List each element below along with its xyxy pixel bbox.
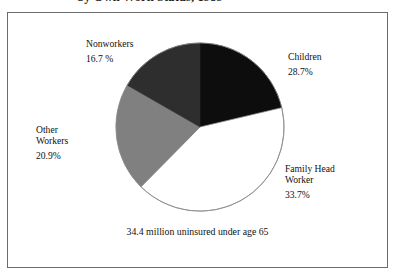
pie-label-family-head-value: 33.7% <box>285 189 335 201</box>
pie-label-family-head-name-line2: Worker <box>285 174 335 185</box>
pie-label-children-value: 28.7% <box>288 66 322 78</box>
pie-label-family-head: Family Head Worker 33.7% <box>285 163 335 201</box>
pie-label-nonworkers: Nonworkers 16.7 % <box>86 38 133 65</box>
pie-label-other-workers-name-line2: Workers <box>36 135 68 146</box>
pie-label-family-head-name-line1: Family Head <box>285 163 335 174</box>
pie-label-other-workers-name-line1: Other <box>36 124 68 135</box>
pie-label-children: Children 28.7% <box>288 51 322 78</box>
pie-label-nonworkers-name: Nonworkers <box>86 38 133 50</box>
pie-label-children-name: Children <box>288 51 322 63</box>
pie-label-other-workers: Other Workers 20.9% <box>36 124 68 162</box>
chart-footnote: 34.4 million uninsured under age 65 <box>7 226 388 237</box>
pie-label-other-workers-value: 20.9% <box>36 150 68 162</box>
pie-label-nonworkers-value: 16.7 % <box>86 53 133 65</box>
